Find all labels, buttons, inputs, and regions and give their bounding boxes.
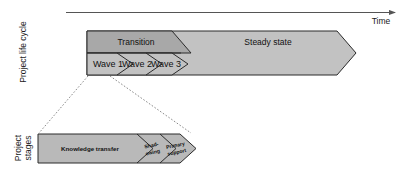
time-axis: Time <box>66 13 395 27</box>
lifecycle-arrow: Transition Steady state Wave 1 Wave 2 Wa… <box>87 31 356 75</box>
time-axis-label: Time <box>372 16 391 26</box>
project-stages-label-line1: Project <box>13 134 23 161</box>
connector-left <box>39 76 88 133</box>
callout-connectors <box>39 76 191 133</box>
wave-3-label: Wave 3 <box>151 59 181 69</box>
transition-label: Transition <box>117 37 154 47</box>
project-lifecycle-diagram: Time Project life cycle Project stages <box>0 0 410 170</box>
project-life-cycle-label: Project life cycle <box>18 21 28 83</box>
vertical-axis-labels: Project life cycle Project stages <box>13 21 33 161</box>
wave-1-label: Wave 1 <box>93 59 123 69</box>
project-stages-arrow: Knowledge transfer Shad- owing Primary s… <box>38 134 196 163</box>
connector-right <box>110 76 191 133</box>
wave-2-label: Wave 2 <box>122 59 152 69</box>
project-stages-label-line2: stages <box>23 135 33 160</box>
stage-knowledge-transfer-label: Knowledge transfer <box>61 145 119 152</box>
steady-state-label: Steady state <box>244 37 292 47</box>
